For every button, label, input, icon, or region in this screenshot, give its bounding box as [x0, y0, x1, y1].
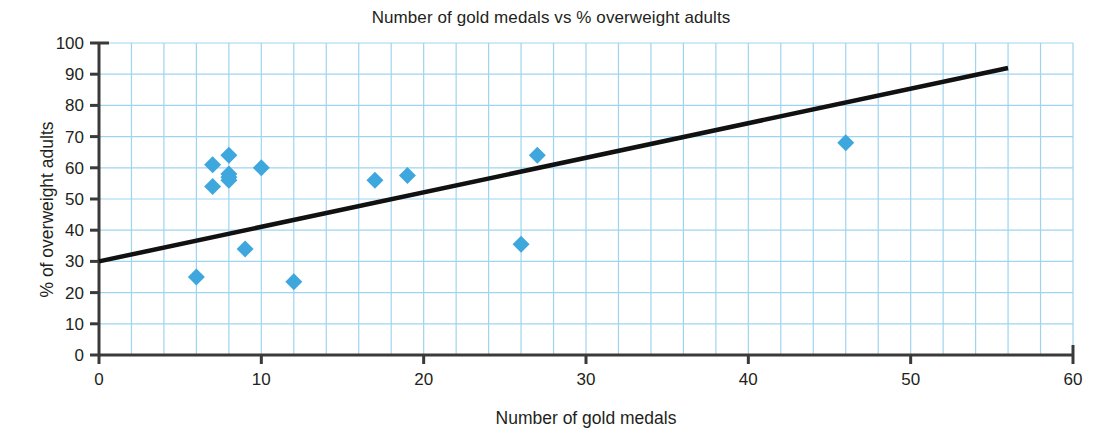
x-tick-label: 50	[901, 370, 920, 389]
tick-labels: 01020304050607080901000102030405060	[56, 34, 1083, 389]
x-tick-label: 0	[94, 370, 103, 389]
data-point-marker	[285, 273, 302, 290]
data-point-marker	[253, 159, 270, 176]
x-axis-label-wrap: Number of gold medals	[99, 408, 1073, 429]
data-point-marker	[237, 240, 254, 257]
data-point-marker	[204, 178, 221, 195]
x-tick-label: 10	[252, 370, 271, 389]
x-tick-label: 30	[577, 370, 596, 389]
y-axis-label: % of overweight adults	[37, 121, 57, 297]
y-tick-label: 30	[65, 252, 84, 271]
x-tick-label: 20	[414, 370, 433, 389]
scatter-chart-figure: Number of gold medals vs % overweight ad…	[0, 0, 1102, 444]
x-tick-label: 60	[1064, 370, 1083, 389]
axis-ticks	[90, 43, 1073, 364]
y-tick-label: 10	[65, 315, 84, 334]
y-tick-label: 80	[65, 96, 84, 115]
y-tick-label: 0	[75, 346, 84, 365]
x-tick-label: 40	[739, 370, 758, 389]
data-point-marker	[220, 147, 237, 164]
y-tick-label: 60	[65, 159, 84, 178]
plot-area: 01020304050607080901000102030405060	[0, 0, 1102, 444]
y-tick-label: 90	[65, 65, 84, 84]
y-tick-label: 100	[56, 34, 84, 53]
y-tick-label: 50	[65, 190, 84, 209]
y-axis-label-wrap: % of overweight adults	[37, 80, 58, 340]
data-point-marker	[529, 147, 546, 164]
grid-lines	[99, 43, 1073, 355]
data-point-marker	[188, 269, 205, 286]
data-point-marker	[366, 172, 383, 189]
data-point-marker	[399, 167, 416, 184]
y-tick-label: 40	[65, 221, 84, 240]
data-point-marker	[204, 156, 221, 173]
y-tick-label: 70	[65, 128, 84, 147]
y-tick-label: 20	[65, 284, 84, 303]
x-axis-label: Number of gold medals	[496, 408, 677, 428]
data-point-marker	[513, 236, 530, 253]
